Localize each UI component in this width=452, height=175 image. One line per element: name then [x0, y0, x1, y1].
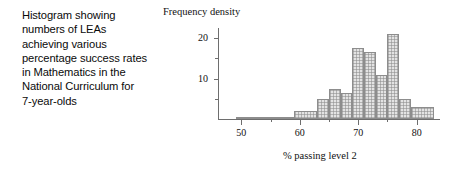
y-tick-label: 20	[188, 32, 208, 43]
x-tick-label: 50	[229, 127, 253, 138]
x-tick-label: 70	[346, 127, 370, 138]
histogram-figure: Histogram showing numbers of LEAs achiev…	[0, 0, 452, 175]
x-axis-label: % passing level 2	[283, 150, 357, 161]
chart-axes	[0, 0, 452, 175]
y-tick-label: 10	[188, 73, 208, 84]
x-tick-label: 60	[288, 127, 312, 138]
x-tick-label: 80	[405, 127, 429, 138]
chart-area: Frequency density 1020 50607080 % passin…	[0, 0, 452, 175]
